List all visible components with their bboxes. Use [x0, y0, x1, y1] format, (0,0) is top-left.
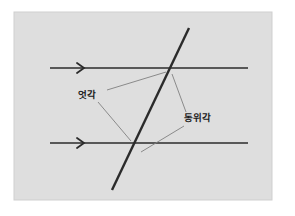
- corresponding-angles-label: 동위각: [184, 112, 211, 123]
- diagram-panel: [14, 12, 272, 200]
- geometry-figure: 엇각 동위각: [0, 0, 295, 216]
- diagram-canvas: 엇각 동위각: [0, 0, 295, 216]
- alternate-angles-label: 엇각: [78, 89, 96, 100]
